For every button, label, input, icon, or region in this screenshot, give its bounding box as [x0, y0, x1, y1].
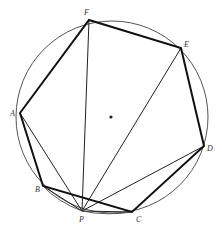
label-b: B: [35, 185, 40, 194]
line-p-f: [82, 20, 89, 211]
line-p-a: [20, 113, 82, 211]
line-p-b: [43, 186, 82, 211]
label-d: D: [206, 144, 213, 153]
label-p: P: [78, 215, 84, 224]
diagram-canvas: ABCDEFP: [0, 0, 222, 233]
line-p-e: [82, 48, 181, 211]
label-e: E: [183, 40, 189, 49]
label-f: F: [83, 8, 89, 17]
center-point: [109, 115, 112, 118]
label-c: C: [136, 215, 142, 224]
label-a: A: [9, 109, 15, 118]
